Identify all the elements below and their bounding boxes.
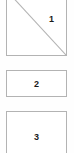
shape-label-3: 3 <box>7 133 66 142</box>
shape-sequence-canvas: 1 2 3 <box>0 0 74 153</box>
shape-label-1: 1 <box>49 15 54 24</box>
shape-label-2: 2 <box>7 80 66 89</box>
shape-panel-2[interactable]: 2 <box>6 70 67 97</box>
shape-panel-1[interactable]: 1 <box>6 0 67 56</box>
diagonal-line-icon <box>7 0 66 55</box>
shape-panel-3[interactable]: 3 <box>6 111 67 153</box>
